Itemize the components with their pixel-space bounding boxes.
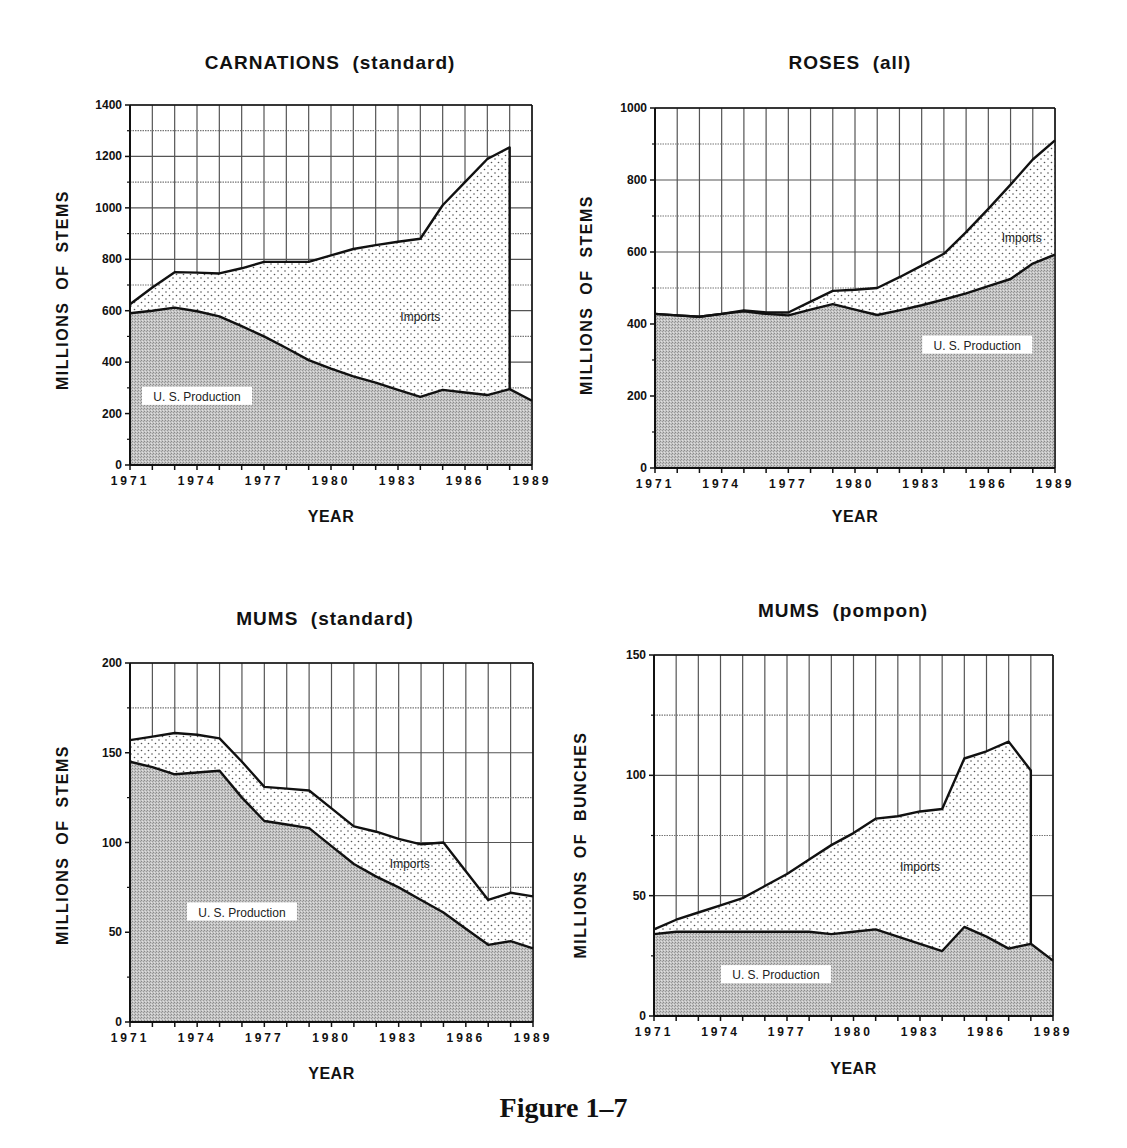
chart-roses: 0200400600800100019711974197719801983198… [620,101,1074,491]
x-tick-labels: 1971197419771980198319861989 [635,1016,1073,1039]
chart-title: MUMS (standard) [125,608,525,630]
svg-text:600: 600 [102,304,122,318]
svg-text:0: 0 [115,1015,122,1029]
y-tick-labels: 050100150200 [102,656,130,1029]
svg-text:1971: 1971 [636,477,675,491]
svg-text:100: 100 [102,836,122,850]
svg-text:200: 200 [102,407,122,421]
svg-text:1971: 1971 [111,474,150,488]
svg-text:600: 600 [627,245,647,259]
svg-text:400: 400 [627,317,647,331]
chart-carnations: 0200400600800100012001400197119741977198… [95,98,551,488]
svg-text:1974: 1974 [178,474,217,488]
svg-text:1989: 1989 [1036,477,1075,491]
svg-text:1977: 1977 [769,477,808,491]
svg-text:Imports: Imports [400,310,440,324]
y-axis-label: MILLIONS OF STEMS [578,145,598,445]
svg-text:50: 50 [109,925,123,939]
svg-text:1980: 1980 [312,474,351,488]
svg-text:1977: 1977 [245,1031,284,1045]
svg-text:Imports: Imports [900,860,940,874]
svg-text:U. S. Production: U. S. Production [153,390,240,404]
svg-text:U. S. Production: U. S. Production [934,339,1021,353]
chart-mums-standard: 0501001502001971197419771980198319861989… [102,656,552,1045]
svg-text:200: 200 [627,389,647,403]
svg-text:U. S. Production: U. S. Production [198,906,285,920]
chart-title: CARNATIONS (standard) [130,52,530,74]
y-tick-labels: 0200400600800100012001400 [95,98,130,472]
imports-label: Imports [392,307,448,325]
svg-text:150: 150 [102,746,122,760]
y-tick-labels: 050100150 [626,648,654,1023]
svg-text:50: 50 [633,889,647,903]
x-axis-label: YEAR [272,1065,392,1083]
x-axis-label: YEAR [794,1060,914,1078]
svg-text:0: 0 [639,1009,646,1023]
svg-text:800: 800 [627,173,647,187]
figure-caption: Figure 1–7 [0,1092,1127,1124]
svg-text:1986: 1986 [969,477,1008,491]
svg-text:1986: 1986 [446,474,485,488]
x-tick-labels: 1971197419771980198319861989 [636,468,1075,491]
svg-text:100: 100 [626,768,646,782]
svg-text:0: 0 [115,458,122,472]
svg-text:1983: 1983 [901,1025,940,1039]
svg-text:1986: 1986 [446,1031,485,1045]
x-axis-label: YEAR [795,508,915,526]
us-production-label: U. S. Production [922,336,1032,354]
x-tick-labels: 1971197419771980198319861989 [111,1022,553,1045]
svg-text:1974: 1974 [178,1031,217,1045]
y-axis-label: MILLIONS OF BUNCHES [572,695,592,995]
x-tick-labels: 1971197419771980198319861989 [111,465,552,488]
svg-text:400: 400 [102,355,122,369]
svg-text:1977: 1977 [245,474,284,488]
svg-text:1980: 1980 [836,477,875,491]
chart-mums-pompon: 0501001501971197419771980198319861989Imp… [626,648,1072,1039]
y-axis-label: MILLIONS OF STEMS [54,140,74,440]
charts-canvas: 0200400600800100012001400197119741977198… [0,0,1127,1148]
svg-text:1974: 1974 [701,1025,740,1039]
y-tick-labels: 02004006008001000 [620,101,655,475]
chart-title: MUMS (pompon) [643,600,1043,622]
svg-text:1989: 1989 [513,474,552,488]
svg-text:1989: 1989 [514,1031,553,1045]
svg-text:Imports: Imports [390,857,430,871]
chart-title: ROSES (all) [650,52,1050,74]
svg-text:150: 150 [626,648,646,662]
svg-text:0: 0 [640,461,647,475]
svg-text:1400: 1400 [95,98,122,112]
svg-text:200: 200 [102,656,122,670]
svg-text:1983: 1983 [379,474,418,488]
y-axis-label: MILLIONS OF STEMS [54,695,74,995]
svg-text:1971: 1971 [111,1031,150,1045]
svg-text:1974: 1974 [702,477,741,491]
svg-text:1983: 1983 [902,477,941,491]
svg-text:1971: 1971 [635,1025,674,1039]
svg-text:1200: 1200 [95,149,122,163]
svg-text:1980: 1980 [312,1031,351,1045]
svg-text:1989: 1989 [1034,1025,1073,1039]
svg-text:1000: 1000 [95,201,122,215]
imports-label: Imports [382,854,438,872]
svg-text:U. S. Production: U. S. Production [732,968,819,982]
us-production-label: U. S. Production [142,387,252,405]
svg-text:Imports: Imports [1002,231,1042,245]
svg-text:800: 800 [102,252,122,266]
svg-text:1980: 1980 [834,1025,873,1039]
svg-text:1986: 1986 [967,1025,1006,1039]
svg-text:1977: 1977 [768,1025,807,1039]
x-axis-label: YEAR [271,508,391,526]
us-production-label: U. S. Production [187,903,297,921]
us-production-label: U. S. Production [721,965,831,983]
svg-text:1983: 1983 [379,1031,418,1045]
imports-label: Imports [892,857,948,875]
imports-label: Imports [994,228,1050,246]
svg-text:1000: 1000 [620,101,647,115]
